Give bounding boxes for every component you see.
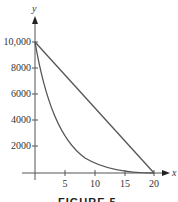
x-tick-label: 10 — [90, 178, 100, 189]
x-tick-label: 5 — [63, 178, 68, 189]
x-axis-arrow-icon — [162, 170, 170, 176]
linear-series-line — [35, 42, 154, 173]
x-tick-label: 15 — [120, 178, 130, 189]
y-tick-label: 8000 — [11, 62, 31, 73]
y-ticks: 10,000 8000 6000 4000 2000 — [4, 36, 39, 151]
y-tick-label: 2000 — [11, 140, 31, 151]
x-axis-label: x — [171, 167, 177, 178]
y-tick-label: 10,000 — [4, 36, 32, 47]
y-axis-label: y — [31, 3, 37, 14]
x-tick-label: 20 — [149, 178, 159, 189]
y-tick-label: 6000 — [11, 88, 31, 99]
figure-caption: FIGURE 5 — [58, 196, 117, 202]
y-tick-label: 4000 — [11, 114, 31, 125]
chart: y x 10,000 8000 6000 4000 2000 5 10 15 2… — [0, 0, 178, 202]
y-axis-arrow-icon — [32, 16, 38, 24]
